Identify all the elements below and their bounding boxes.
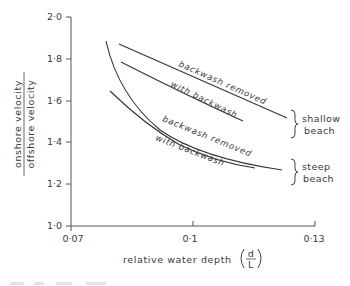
x-axis	[71, 221, 315, 231]
right-paren	[258, 249, 261, 268]
y-axis	[66, 17, 71, 226]
x-tick-label: 0·13	[303, 233, 324, 244]
y-axis-numerator: onshore velocity	[12, 80, 23, 168]
y-axis-title: onshore velocity offshore velocity	[12, 72, 36, 176]
chart: 2·0 1·8 1·6 1·4 1·2 1·0 0·07 0·1 0·13 re…	[0, 0, 350, 286]
y-tick-labels: 2·0 1·8 1·6 1·4 1·2 1·0	[47, 11, 62, 231]
x-tick-label: 0·1	[182, 233, 197, 244]
curve-labels: backwash removed with backwash backwash …	[154, 59, 268, 168]
y-tick-label: 1·6	[47, 95, 62, 106]
left-paren	[241, 249, 244, 268]
cropped-caption-fragment	[10, 282, 106, 285]
brace-steep-beach	[291, 159, 298, 185]
y-tick-label: 1·4	[47, 136, 62, 147]
y-tick-label: 1·0	[47, 220, 62, 231]
y-tick-label: 1·8	[47, 53, 62, 64]
y-tick-label: 1·2	[47, 178, 62, 189]
group-label-shallow: shallow	[302, 113, 340, 124]
x-fraction-denominator: L	[248, 259, 254, 270]
x-axis-title: relative water depth d L	[123, 248, 261, 270]
x-axis-title-text: relative water depth	[123, 254, 232, 265]
group-label-steep: steep	[302, 161, 330, 172]
x-tick-label: 0·07	[62, 233, 83, 244]
x-fraction-numerator: d	[248, 248, 255, 259]
curve-shallow-backwash-removed	[119, 44, 287, 118]
label-shallow-backwash-removed: backwash removed	[177, 59, 268, 107]
brace-shallow-beach	[291, 110, 298, 138]
y-tick-label: 2·0	[47, 11, 62, 22]
x-tick-labels: 0·07 0·1 0·13	[62, 233, 324, 244]
y-axis-denominator: offshore velocity	[25, 79, 36, 168]
group-label-steep-beach: beach	[303, 173, 334, 184]
group-label-shallow-beach: beach	[304, 125, 335, 136]
